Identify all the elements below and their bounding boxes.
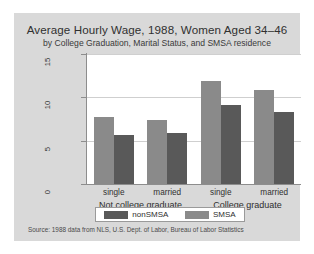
chart-panel: Average Hourly Wage, 1988, Women Aged 34… [14,13,300,241]
y-axis-line [86,53,87,185]
legend-entry-nonsmsa: nonSMSA [104,210,168,219]
legend-label-smsa: SMSA [213,210,236,219]
chart-title: Average Hourly Wage, 1988, Women Aged 34… [14,23,300,36]
x-axis-line [86,184,301,185]
y-tick-mark [81,141,86,142]
x-tick-label: married [137,188,197,197]
legend-label-nonsmsa: nonSMSA [132,210,168,219]
y-tick-label: 10 [44,97,52,113]
bar-smsa-0 [114,135,134,184]
legend-entry-smsa: SMSA [185,210,236,219]
x-tick-label: single [84,188,144,197]
legend-swatch-smsa [185,211,209,219]
legend-swatch-nonsmsa [104,211,128,219]
y-tick-label: 15 [44,54,52,70]
y-tick-mark [81,54,86,55]
y-tick-label: 0 [44,184,52,200]
bar-smsa-2 [221,105,241,184]
bar-smsa-1 [167,133,187,184]
chart-source-note: Source: 1988 data from NLS, U.S. Dept. o… [28,226,244,233]
bar-smsa-3 [274,112,294,184]
chart-legend: nonSMSA SMSA [95,207,245,222]
x-tick-label: single [191,188,251,197]
x-tick-label: married [244,188,304,197]
bar-nonsmsa-1 [147,120,167,184]
y-tick-mark [81,97,86,98]
chart-subtitle: by College Graduation, Marital Status, a… [14,38,300,48]
y-tick-label: 5 [44,141,52,157]
gridline [87,54,301,55]
bar-nonsmsa-2 [201,81,221,184]
chart-figure: Average Hourly Wage, 1988, Women Aged 34… [0,0,314,254]
y-tick-mark [81,184,86,185]
bar-nonsmsa-3 [254,90,274,184]
bar-nonsmsa-0 [94,117,114,184]
